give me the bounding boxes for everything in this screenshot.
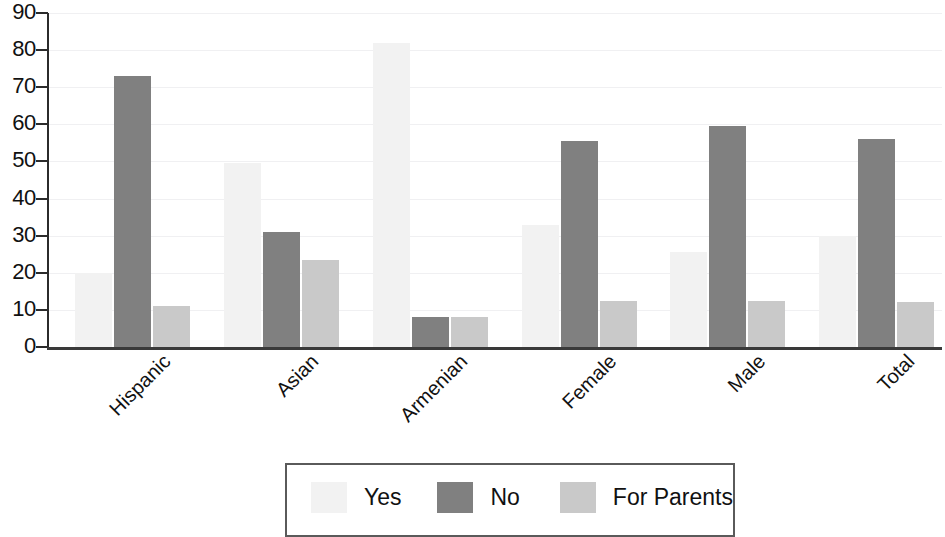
bar	[263, 232, 300, 347]
bar-group	[373, 13, 488, 347]
bar	[748, 301, 785, 347]
legend: YesNoFor Parents	[285, 463, 735, 537]
y-axis-tick-label: 50	[0, 149, 36, 171]
y-axis-tick-label-text: 70	[2, 75, 36, 97]
y-axis-tick-label: 80	[0, 38, 36, 60]
bars-layer	[49, 13, 942, 347]
y-axis-tick-label-text: 10	[2, 298, 36, 320]
y-axis-tick-label-text: 50	[2, 149, 36, 171]
bar	[412, 317, 449, 347]
y-axis-tick-label-text: 30	[2, 224, 36, 246]
bar	[709, 126, 746, 347]
bar-chart: 9080706050403020100 HispanicAsianArmenia…	[0, 0, 945, 537]
y-axis-tick-label-text: 90	[2, 1, 36, 23]
bar	[897, 302, 934, 347]
y-axis-tick-label: 40	[0, 187, 36, 209]
bar	[561, 141, 598, 347]
bar	[522, 225, 559, 347]
y-axis-tick-label: 10	[0, 298, 36, 320]
legend-label: Yes	[364, 486, 402, 509]
legend-swatch-no	[437, 482, 473, 513]
bar	[451, 317, 488, 347]
y-axis-tick-label: 70	[0, 75, 36, 97]
bar	[858, 139, 895, 347]
bar-group	[819, 13, 934, 347]
bar-group	[75, 13, 190, 347]
y-axis-tick-label-text: 60	[2, 112, 36, 134]
y-axis-tick-label: 30	[0, 224, 36, 246]
bar-group	[224, 13, 339, 347]
y-axis-tick-label: 90	[0, 1, 36, 23]
bar	[114, 76, 151, 347]
bar	[819, 236, 856, 347]
y-axis-tick-label-text: 80	[2, 38, 36, 60]
y-axis-tick-label-text: 40	[2, 187, 36, 209]
bar	[153, 306, 190, 347]
bar	[670, 252, 707, 347]
y-axis-tick-label: 20	[0, 261, 36, 283]
legend-items: YesNoFor Parents	[287, 482, 733, 513]
legend-swatch-for-parents	[560, 482, 596, 513]
x-axis-labels: HispanicAsianArmenianFemaleMaleTotal	[0, 350, 945, 445]
legend-swatch-yes	[311, 482, 347, 513]
legend-label: For Parents	[613, 486, 733, 509]
y-axis-tick-label: 60	[0, 112, 36, 134]
legend-label: No	[490, 486, 519, 509]
bar	[224, 163, 261, 347]
bar-group	[522, 13, 637, 347]
bar	[373, 43, 410, 347]
legend-item[interactable]: Yes	[311, 482, 402, 513]
y-axis-tick-label-text: 20	[2, 261, 36, 283]
bar	[302, 260, 339, 347]
legend-item[interactable]: For Parents	[560, 482, 733, 513]
bar	[75, 273, 112, 347]
legend-item[interactable]: No	[437, 482, 519, 513]
bar-group	[670, 13, 785, 347]
bar	[600, 301, 637, 347]
